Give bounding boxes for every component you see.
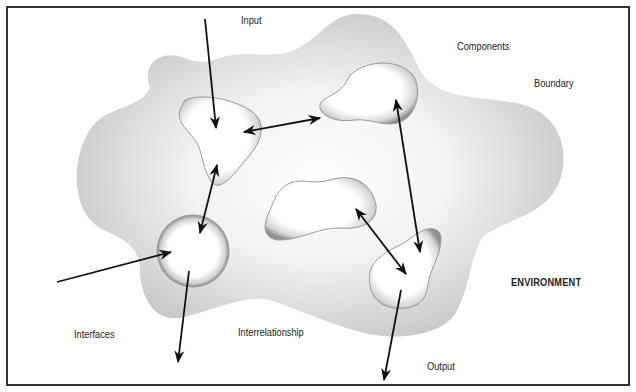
label-environment: ENVIRONMENT	[511, 276, 581, 288]
label-input: Input	[241, 14, 262, 26]
component-circle	[157, 215, 229, 287]
label-components: Components	[457, 40, 509, 52]
system-boundary	[77, 14, 564, 337]
label-output: Output	[427, 360, 455, 372]
label-interfaces: Interfaces	[74, 328, 115, 340]
label-interrelationship: Interrelationship	[238, 326, 304, 338]
label-boundary: Boundary	[534, 77, 574, 89]
